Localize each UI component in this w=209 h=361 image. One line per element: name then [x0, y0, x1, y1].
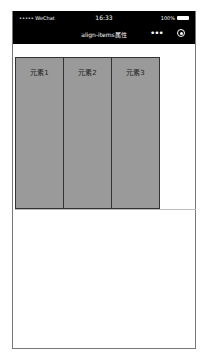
battery-percent: 100%	[161, 15, 175, 21]
battery-status: 100%	[161, 15, 189, 21]
flex-item-3: 元素3	[111, 57, 160, 209]
flex-item-1: 元素1	[15, 57, 64, 209]
status-bar: ••••• WeChat 16:33 100%	[13, 11, 195, 25]
flex-item-2: 元素2	[63, 57, 112, 209]
phone-frame: ••••• WeChat 16:33 100% align-items属性 ••…	[12, 11, 196, 349]
page-title: align-items属性	[13, 30, 195, 39]
nav-bar: align-items属性 •••	[13, 25, 195, 44]
flex-container: 元素1 元素2 元素3	[15, 57, 196, 210]
battery-icon	[177, 16, 189, 20]
more-menu-button[interactable]: •••	[150, 28, 163, 38]
close-mini-program-icon[interactable]	[177, 29, 185, 37]
